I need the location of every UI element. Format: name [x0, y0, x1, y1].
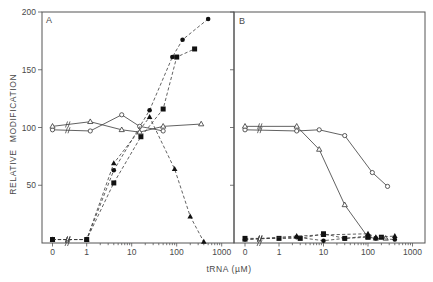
filled-circle-marker-icon: [180, 37, 185, 42]
filled-triangle-marker-icon: [172, 166, 178, 171]
series-line: [245, 234, 381, 239]
open-triangle-marker-icon: [242, 124, 247, 129]
y-tick-label: 50: [27, 180, 37, 190]
filled-triangle-marker-icon: [201, 239, 207, 244]
filled-triangle-marker-icon: [111, 160, 117, 165]
series-layer: [50, 17, 398, 244]
filled-triangle-marker-icon: [365, 231, 371, 236]
series-line: [53, 117, 204, 242]
open-circle-marker-icon: [120, 113, 124, 117]
filled-triangle-marker-icon: [187, 213, 193, 218]
x-tick-label: 1000: [403, 247, 422, 257]
series-filled-circle: [50, 17, 210, 243]
series-open-circle: [243, 127, 390, 188]
filled-square-marker-icon: [161, 107, 166, 112]
x-tick-label: 0: [243, 247, 248, 257]
series-line: [53, 115, 164, 131]
open-triangle-marker-icon: [342, 202, 347, 207]
filled-square-marker-icon: [138, 134, 143, 139]
y-axis-title-relative: RELATIVE: [8, 149, 18, 194]
x-tick-label: 100: [361, 247, 375, 257]
panel-b-frame: [234, 12, 425, 243]
open-circle-marker-icon: [161, 129, 165, 133]
x-tick-label: 100: [170, 247, 184, 257]
series-filled-square: [243, 231, 384, 241]
filled-square-marker-icon: [277, 236, 282, 241]
y-axis-title-modification: MODIFICATION: [8, 74, 18, 142]
filled-square-marker-icon: [174, 55, 179, 60]
open-circle-marker-icon: [88, 129, 92, 133]
filled-triangle-marker-icon: [147, 114, 153, 119]
series-line: [53, 19, 209, 240]
filled-triangle-marker-icon: [294, 233, 300, 238]
y-tick-label: 200: [22, 7, 36, 17]
series-open-triangle: [242, 123, 388, 240]
filled-square-marker-icon: [192, 46, 197, 51]
filled-circle-marker-icon: [206, 17, 211, 22]
open-circle-marker-icon: [343, 133, 347, 137]
filled-square-marker-icon: [342, 236, 347, 241]
open-circle-marker-icon: [317, 128, 321, 132]
open-triangle-marker-icon: [199, 121, 204, 126]
x-tick-label: 1000: [212, 247, 231, 257]
x-tick-label: 10: [319, 247, 329, 257]
series-line: [245, 130, 388, 187]
filled-triangle-marker-icon: [392, 233, 398, 238]
open-circle-marker-icon: [370, 170, 374, 174]
x-tick-label: 1: [84, 247, 89, 257]
open-circle-marker-icon: [385, 184, 389, 188]
series-open-triangle: [50, 119, 204, 134]
series-filled-triangle: [50, 114, 207, 244]
filled-circle-marker-icon: [147, 108, 152, 113]
open-triangle-marker-icon: [88, 119, 93, 124]
chart-figure: A B RELATIVE MODIFICATION tRNA (µM) 5010…: [0, 0, 433, 282]
x-axis-title: tRNA (µM): [206, 264, 251, 274]
open-circle-marker-icon: [295, 129, 299, 133]
axes-layer: 501001502000110100100001101001000: [22, 7, 422, 257]
y-tick-label: 100: [22, 123, 36, 133]
series-filled-square: [50, 46, 197, 242]
panel-a-label: A: [46, 15, 52, 25]
x-tick-label: 10: [127, 247, 137, 257]
panel-b-label: B: [239, 16, 245, 26]
series-line: [245, 126, 386, 238]
open-triangle-marker-icon: [294, 124, 299, 129]
filled-circle-marker-icon: [321, 238, 326, 243]
filled-square-marker-icon: [111, 180, 116, 185]
filled-circle-marker-icon: [170, 55, 175, 60]
x-tick-label: 1: [277, 247, 282, 257]
x-tick-label: 0: [50, 247, 55, 257]
y-tick-label: 150: [22, 65, 36, 75]
series-line: [53, 49, 195, 240]
